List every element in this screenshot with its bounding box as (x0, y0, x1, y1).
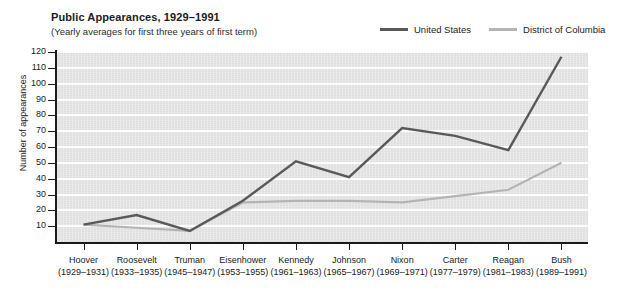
y-axis-tick-mark (48, 100, 55, 101)
legend-label: District of Columbia (523, 24, 605, 35)
y-axis-tick-mark (48, 226, 55, 227)
y-axis-tick-label-wrap: 60 (14, 141, 46, 152)
y-axis-tick-label: 60 (20, 141, 46, 151)
y-axis-tick-label-wrap: 10 (14, 220, 46, 231)
y-axis-tick-label: 110 (20, 62, 46, 72)
y-axis-tick-label-wrap: 40 (14, 173, 46, 184)
x-axis-tick-mark (84, 244, 85, 250)
x-axis-tick-president: Bush (513, 254, 609, 266)
legend-united-states: United States (380, 24, 471, 35)
x-axis-tick-mark (243, 244, 244, 250)
legend-swatch-icon (380, 28, 408, 31)
y-axis-tick-label: 20 (20, 204, 46, 214)
y-axis-tick-label-wrap: 120 (14, 46, 46, 57)
y-axis-tick-mark (48, 179, 55, 180)
y-axis-tick-label: 30 (20, 189, 46, 199)
y-axis-tick-mark (48, 163, 55, 164)
x-axis-tick-mark (296, 244, 297, 250)
x-axis-tick-years: (1989–1991) (513, 266, 609, 278)
chart-figure: Public Appearances, 1929–1991 (Yearly av… (0, 0, 620, 305)
y-axis-tick-label-wrap: 100 (14, 78, 46, 89)
chart-title: Public Appearances, 1929–1991 (51, 11, 220, 23)
y-axis-tick-label: 10 (20, 220, 46, 230)
x-axis-tick-mark (190, 244, 191, 250)
x-axis-tick-mark (137, 244, 138, 250)
y-axis-tick-mark (48, 210, 55, 211)
legend-district-of-columbia: District of Columbia (489, 24, 605, 35)
y-axis-tick-mark (48, 68, 55, 69)
y-axis-tick-mark (48, 115, 55, 116)
x-axis-tick-mark (508, 244, 509, 250)
y-axis-tick-mark (48, 52, 55, 53)
legend-label: United States (414, 24, 471, 35)
y-axis-tick-label: 90 (20, 94, 46, 104)
chart-legend: United StatesDistrict of Columbia (380, 24, 605, 35)
y-axis-tick-mark (48, 195, 55, 196)
y-axis-tick-label-wrap: 30 (14, 189, 46, 200)
legend-swatch-icon (489, 28, 517, 31)
y-axis-tick-label: 70 (20, 125, 46, 135)
x-axis-tick-mark (349, 244, 350, 250)
y-axis-tick-mark (48, 131, 55, 132)
y-axis-tick-label-wrap: 80 (14, 109, 46, 120)
x-axis-tick-mark (561, 244, 562, 250)
y-axis-tick-label-wrap: 50 (14, 157, 46, 168)
chart-subtitle: (Yearly averages for first three years o… (51, 26, 257, 37)
x-axis-tick-label: Bush(1989–1991) (513, 254, 609, 278)
y-axis-tick-label: 120 (20, 46, 46, 56)
y-axis-tick-mark (48, 147, 55, 148)
series-line-united-states (84, 57, 562, 231)
x-axis-tick-mark (455, 244, 456, 250)
y-axis-tick-mark (48, 84, 55, 85)
y-axis-tick-label: 50 (20, 157, 46, 167)
cropped-text-sliver (60, 0, 560, 5)
y-axis-tick-label: 80 (20, 109, 46, 119)
y-axis-line (55, 50, 57, 244)
y-axis-tick-label: 100 (20, 78, 46, 88)
y-axis-tick-label-wrap: 90 (14, 94, 46, 105)
x-axis-tick-mark (402, 244, 403, 250)
series-lines (57, 52, 588, 242)
y-axis-tick-label-wrap: 110 (14, 62, 46, 73)
y-axis-tick-label-wrap: 70 (14, 125, 46, 136)
y-axis-tick-label: 40 (20, 173, 46, 183)
y-axis-tick-label-wrap: 20 (14, 204, 46, 215)
